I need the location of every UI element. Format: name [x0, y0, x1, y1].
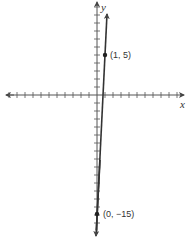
- coordinate-plane: x y (1, 5) (0, −15): [0, 0, 189, 238]
- x-axis-label: x: [179, 98, 185, 110]
- point-label-0-neg15: (0, −15): [103, 209, 134, 219]
- point-0-neg15: [95, 212, 99, 216]
- x-axis: [6, 92, 184, 98]
- y-axis: [94, 2, 100, 234]
- point-label-1-5: (1, 5): [110, 50, 131, 60]
- point-1-5: [103, 53, 107, 57]
- y-axis-label: y: [100, 1, 106, 13]
